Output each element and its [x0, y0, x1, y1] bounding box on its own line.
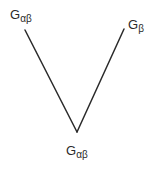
node-subscript: αβ	[20, 13, 32, 24]
node-symbol: G	[66, 143, 76, 158]
node-label-top-left: Gαβ	[10, 8, 32, 21]
edge-top-right-to-bottom	[77, 29, 124, 132]
edge-top-left-to-bottom	[25, 30, 77, 132]
node-label-top-right: Gβ	[128, 18, 144, 31]
node-symbol: G	[10, 7, 20, 22]
diagram-canvas: Gαβ Gβ Gαβ	[0, 0, 153, 169]
node-subscript: αβ	[76, 149, 88, 160]
node-symbol: G	[128, 17, 138, 32]
node-subscript: β	[138, 23, 144, 34]
node-label-bottom: Gαβ	[66, 144, 88, 157]
